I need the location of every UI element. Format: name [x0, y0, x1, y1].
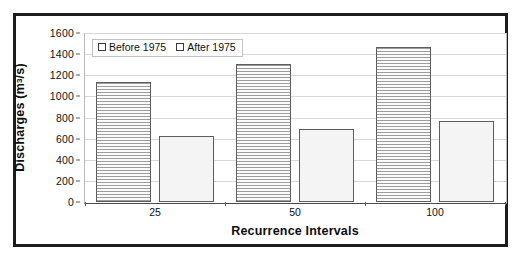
bar-after-1975-25: [159, 136, 214, 202]
y-tick-label-1600: 1600: [50, 27, 74, 39]
x-tick-mark-2: [365, 202, 366, 206]
y-tick-label-200: 200: [56, 175, 74, 187]
y-tick-mark-1400: [76, 54, 80, 55]
y-tick-mark-800: [76, 117, 80, 118]
y-axis-ticks: 02004006008001000120014001600: [38, 33, 80, 202]
bar-after-1975-50: [299, 129, 354, 202]
y-axis-title-tail: /s): [13, 63, 27, 78]
y-tick-label-800: 800: [56, 112, 74, 124]
y-tick-mark-600: [76, 138, 80, 139]
chart-area: Discharges (m3/s) 0200400600800100012001…: [0, 0, 523, 264]
x-axis-ticks: 2550100: [85, 206, 505, 222]
y-tick-mark-200: [76, 180, 80, 181]
y-tick-label-600: 600: [56, 133, 74, 145]
y-tick-label-0: 0: [68, 196, 74, 208]
legend-swatch-after-1975: [176, 43, 184, 51]
y-tick-label-1000: 1000: [50, 90, 74, 102]
x-tick-mark-1: [225, 202, 226, 206]
y-tick-mark-1200: [76, 75, 80, 76]
chart-figure: Discharges (m3/s) 0200400600800100012001…: [0, 0, 523, 264]
bar-before-1975-25: [96, 82, 151, 202]
bars-layer: [85, 33, 505, 202]
y-tick-mark-0: [76, 202, 80, 203]
bar-before-1975-50: [236, 64, 291, 202]
y-tick-label-1200: 1200: [50, 69, 74, 81]
legend-entry-after-1975: After 1975: [176, 42, 235, 53]
bar-before-1975-100: [376, 47, 431, 202]
y-axis-title-text: Discharges (m: [13, 83, 27, 172]
y-tick-mark-400: [76, 159, 80, 160]
x-tick-label-50: 50: [289, 206, 301, 218]
legend-swatch-before-1975: [98, 43, 106, 51]
legend-label-after-1975: After 1975: [187, 42, 235, 53]
x-axis-title: Recurrence Intervals: [85, 224, 505, 238]
y-tick-label-400: 400: [56, 154, 74, 166]
x-tick-label-100: 100: [426, 206, 444, 218]
x-tick-mark-3: [505, 202, 506, 206]
legend-entry-before-1975: Before 1975: [98, 42, 166, 53]
x-tick-label-25: 25: [149, 206, 161, 218]
y-tick-mark-1600: [76, 33, 80, 34]
y-tick-label-1400: 1400: [50, 48, 74, 60]
y-tick-mark-1000: [76, 96, 80, 97]
x-tick-mark-0: [85, 202, 86, 206]
chart-legend: Before 1975 After 1975: [92, 39, 243, 57]
legend-label-before-1975: Before 1975: [109, 42, 166, 53]
bar-after-1975-100: [439, 121, 494, 202]
y-axis-title: Discharges (m3/s): [11, 33, 29, 202]
